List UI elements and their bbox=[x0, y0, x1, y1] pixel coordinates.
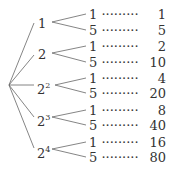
leaf-result: 4 bbox=[140, 72, 166, 85]
tree-diagram: 1 2 22 23 24 1 ········· 1 5 ········· 5… bbox=[0, 0, 176, 170]
leaf-row: 1 ········· bbox=[89, 104, 139, 117]
leaf-result: 1 bbox=[140, 8, 166, 21]
leaf-result: 5 bbox=[140, 24, 166, 37]
leaf-row: 5 ········· bbox=[89, 24, 139, 37]
leaf-row: 5 ········· bbox=[89, 56, 139, 69]
branch-label-2: 2 bbox=[38, 48, 46, 61]
leaf-row: 1 ········· bbox=[89, 40, 139, 53]
leaf-result: 2 bbox=[140, 40, 166, 53]
leaf-row: 5 ········· bbox=[89, 119, 139, 132]
leaf-row: 5 ········· bbox=[89, 87, 139, 100]
leaf-result: 16 bbox=[140, 136, 166, 149]
branch-label-2-squared: 22 bbox=[37, 79, 50, 96]
branch-label-2-cubed: 23 bbox=[37, 111, 50, 128]
branch-label-2-fourth: 24 bbox=[37, 143, 50, 160]
leaf-row: 1 ········· bbox=[89, 136, 139, 149]
branch-label-1: 1 bbox=[38, 17, 46, 30]
leaf-result: 20 bbox=[140, 87, 166, 100]
leaf-result: 40 bbox=[140, 119, 166, 132]
leaf-row: 1 ········· bbox=[89, 8, 139, 21]
leaf-result: 8 bbox=[140, 104, 166, 117]
leaf-result: 10 bbox=[140, 56, 166, 69]
leaf-result: 80 bbox=[140, 151, 166, 164]
leaf-row: 1 ········· bbox=[89, 72, 139, 85]
leaf-row: 5 ········· bbox=[89, 151, 139, 164]
